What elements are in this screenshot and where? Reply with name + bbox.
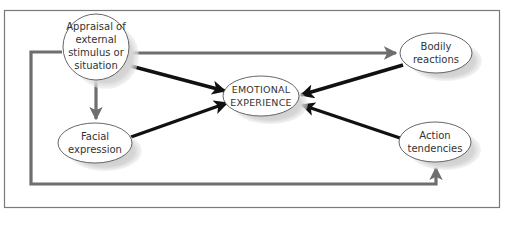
svg-text:reactions: reactions: [413, 54, 459, 65]
svg-text:EXPERIENCE: EXPERIENCE: [230, 97, 291, 108]
node-bodily-reactions: Bodily reactions: [400, 33, 472, 73]
svg-text:tendencies: tendencies: [408, 143, 463, 154]
svg-text:situation: situation: [74, 60, 118, 71]
emotion-diagram: Appraisal of external stimulus or situat…: [0, 0, 516, 229]
node-action-tendencies: Action tendencies: [399, 122, 471, 162]
svg-text:expression: expression: [68, 144, 122, 155]
node-facial-expression: Facial expression: [58, 123, 132, 163]
svg-text:Facial: Facial: [81, 131, 109, 142]
svg-text:Bodily: Bodily: [421, 41, 452, 52]
svg-text:EMOTIONAL: EMOTIONAL: [232, 84, 291, 95]
node-emotional-experience: EMOTIONAL EXPERIENCE: [223, 76, 299, 116]
svg-text:Appraisal of: Appraisal of: [66, 21, 126, 32]
node-appraisal: Appraisal of external stimulus or situat…: [63, 14, 129, 80]
svg-text:Action: Action: [419, 130, 450, 141]
svg-text:external: external: [75, 34, 116, 45]
svg-text:stimulus or: stimulus or: [68, 47, 125, 58]
